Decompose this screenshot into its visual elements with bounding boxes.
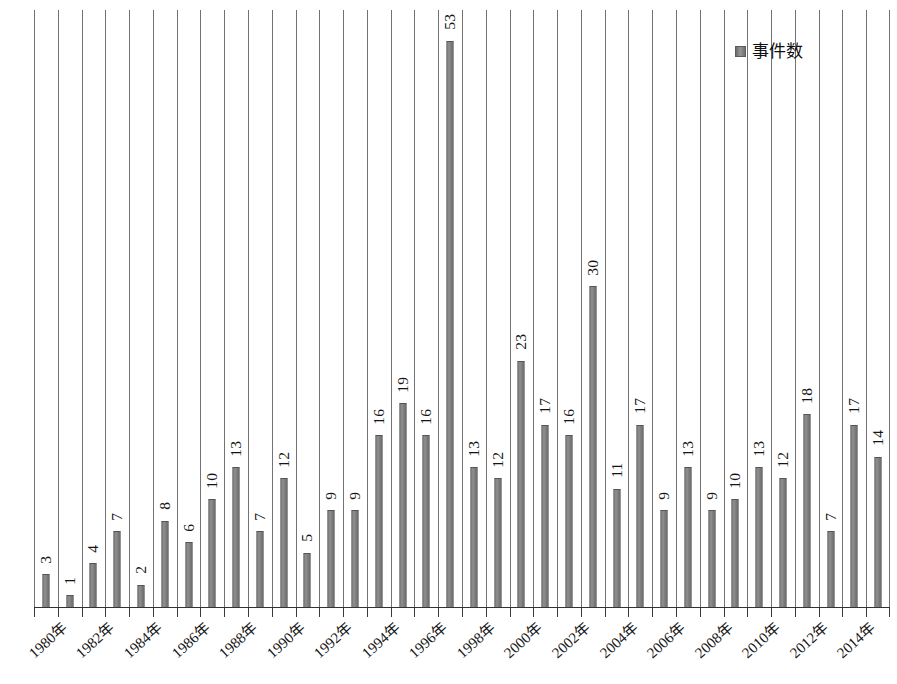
x-axis-tick [296, 608, 297, 617]
bar-slot[interactable]: 4 [82, 10, 106, 607]
bar-slot[interactable]: 9 [652, 10, 676, 607]
bar-value-label: 7 [252, 487, 268, 521]
bar-slot[interactable]: 12 [486, 10, 510, 607]
bar[interactable] [447, 41, 454, 607]
bar[interactable] [185, 542, 192, 607]
bar-slot[interactable]: 8 [153, 10, 177, 607]
bar-slot[interactable]: 2 [129, 10, 153, 607]
bar[interactable] [661, 510, 668, 607]
bar-slot[interactable]: 9 [343, 10, 367, 607]
bar-slot[interactable]: 14 [866, 10, 890, 607]
bar[interactable] [827, 531, 834, 607]
bar[interactable] [233, 467, 240, 607]
bar-slot[interactable]: 7 [819, 10, 843, 607]
bar-value-label: 10 [728, 455, 744, 489]
bar[interactable] [779, 478, 786, 607]
x-axis-label: 2014年 [835, 620, 878, 661]
x-axis-label: 1994年 [359, 620, 402, 661]
bar-value-label: 17 [537, 380, 553, 414]
bar-slot[interactable]: 7 [248, 10, 272, 607]
bar[interactable] [803, 414, 810, 607]
bar[interactable] [637, 425, 644, 607]
bar-slot[interactable]: 16 [367, 10, 391, 607]
bar[interactable] [375, 435, 382, 607]
x-axis-tick [533, 608, 534, 617]
bar-slot[interactable]: 13 [462, 10, 486, 607]
bar[interactable] [351, 510, 358, 607]
x-axis-tick [557, 608, 558, 617]
bar[interactable] [161, 521, 168, 607]
x-axis-tick [795, 608, 796, 617]
bar[interactable] [137, 585, 144, 607]
x-axis-tick [652, 608, 653, 617]
bar-slot[interactable]: 30 [581, 10, 605, 607]
bar[interactable] [565, 435, 572, 607]
bar[interactable] [589, 286, 596, 607]
bar[interactable] [42, 574, 49, 607]
bar-slot[interactable]: 12 [272, 10, 296, 607]
bar[interactable] [851, 425, 858, 607]
bar-slot[interactable]: 16 [557, 10, 581, 607]
x-axis-tick [105, 608, 106, 617]
bar-slot[interactable]: 17 [533, 10, 557, 607]
x-axis-tick [842, 608, 843, 617]
bar[interactable] [209, 499, 216, 607]
bar-slot[interactable]: 11 [605, 10, 629, 607]
bar[interactable] [423, 435, 430, 607]
bar[interactable] [756, 467, 763, 607]
bar-slot[interactable]: 5 [296, 10, 320, 607]
bar[interactable] [518, 361, 525, 607]
bar-value-label: 6 [181, 497, 197, 531]
x-axis-tick [724, 608, 725, 617]
bar-slot[interactable]: 7 [105, 10, 129, 607]
bar-slot[interactable]: 18 [795, 10, 819, 607]
bar-slot[interactable]: 19 [391, 10, 415, 607]
bar[interactable] [90, 563, 97, 607]
x-axis-labels: 1980年1982年1984年1986年1988年1990年1992年1994年… [34, 620, 890, 684]
bar-slot[interactable]: 1 [58, 10, 82, 607]
bar[interactable] [732, 499, 739, 607]
bar[interactable] [708, 510, 715, 607]
bar[interactable] [114, 531, 121, 607]
bar[interactable] [470, 467, 477, 607]
bar-slot[interactable]: 3 [34, 10, 58, 607]
bar[interactable] [280, 478, 287, 607]
bar[interactable] [613, 489, 620, 607]
x-axis-tick [248, 608, 249, 617]
x-axis-tick [82, 608, 83, 617]
x-axis-label: 2002年 [550, 620, 593, 661]
bar-slot[interactable]: 17 [842, 10, 866, 607]
x-axis-tick [224, 608, 225, 617]
bar[interactable] [684, 467, 691, 607]
x-axis-tick [34, 608, 35, 617]
bar-value-label: 8 [157, 476, 173, 510]
bar[interactable] [304, 553, 311, 607]
bar-slot[interactable]: 9 [319, 10, 343, 607]
bar-value-label: 17 [633, 380, 649, 414]
bar-slot[interactable]: 10 [724, 10, 748, 607]
bar-slot[interactable]: 12 [771, 10, 795, 607]
x-axis-label: 1990年 [264, 620, 307, 661]
x-axis-label: 1980年 [26, 620, 69, 661]
bar-slot[interactable]: 17 [628, 10, 652, 607]
bar[interactable] [66, 595, 73, 607]
bar[interactable] [328, 510, 335, 607]
bar[interactable] [399, 403, 406, 607]
bar-slot[interactable]: 9 [700, 10, 724, 607]
bar-slot[interactable]: 10 [200, 10, 224, 607]
bar-slot[interactable]: 23 [510, 10, 534, 607]
bar-slot[interactable]: 13 [224, 10, 248, 607]
x-axis-tick [438, 608, 439, 617]
bar-slot[interactable]: 53 [438, 10, 462, 607]
bar-slot[interactable]: 13 [676, 10, 700, 607]
bar[interactable] [256, 531, 263, 607]
bar[interactable] [542, 425, 549, 607]
bar-value-label: 19 [395, 359, 411, 393]
bar-slot[interactable]: 16 [414, 10, 438, 607]
bar[interactable] [875, 457, 882, 607]
bar-value-label: 23 [514, 316, 530, 350]
bar-slot[interactable]: 13 [747, 10, 771, 607]
bar[interactable] [494, 478, 501, 607]
bar-value-label: 3 [38, 529, 54, 563]
bar-slot[interactable]: 6 [177, 10, 201, 607]
